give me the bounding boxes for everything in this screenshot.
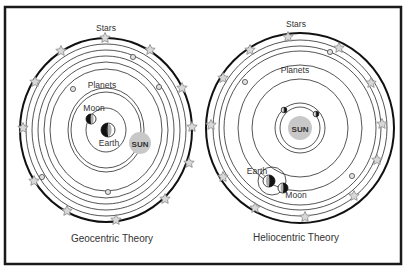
star-icon — [177, 83, 187, 93]
geo-caption: Geocentric Theory — [71, 233, 153, 244]
geo-sun-label: SUN — [132, 140, 149, 149]
figure-frame — [5, 7, 401, 264]
star-icon — [300, 212, 310, 222]
planet-icon — [105, 189, 110, 194]
geo-stars-label: Stars — [96, 23, 116, 33]
geo-moon-label: Moon — [83, 103, 105, 113]
star-icon — [206, 120, 216, 130]
planet-icon — [70, 86, 75, 91]
earth-icon-terminator — [107, 124, 112, 136]
planet-icon — [130, 54, 135, 59]
helio-earth-label: Earth — [247, 166, 268, 176]
star-icon — [29, 176, 39, 186]
moon-icon-terminator — [90, 115, 94, 124]
planet-icon — [39, 174, 44, 179]
helio-planets-label: Planets — [281, 65, 309, 75]
helio-stars-label: Stars — [286, 19, 306, 29]
star-icon — [187, 122, 197, 132]
inner-planet-icon-terminator — [315, 112, 317, 117]
inner-planet-icon-terminator — [283, 108, 285, 113]
star-icon — [250, 203, 260, 213]
planet-icon — [349, 173, 354, 178]
planet-icon — [242, 79, 247, 84]
helio-sun-label: SUN — [292, 125, 309, 134]
geo-planets-label: Planets — [88, 80, 116, 90]
geocentric-diagram — [18, 33, 197, 225]
star-icon — [218, 172, 228, 182]
earth-icon-terminator — [266, 176, 270, 186]
planet-icon — [327, 49, 332, 54]
planet-icon — [156, 84, 161, 89]
geo-earth-label: Earth — [99, 138, 120, 148]
star-icon — [160, 194, 170, 204]
star-icon — [366, 78, 376, 88]
moon-icon-terminator — [281, 184, 285, 193]
helio-moon-label: Moon — [285, 190, 307, 200]
cosmology-diagram: Stars Planets Moon Earth SUN Geocentric … — [0, 0, 408, 270]
star-icon — [377, 119, 387, 129]
star-icon — [100, 33, 110, 43]
helio-caption: Heliocentric Theory — [253, 232, 339, 243]
